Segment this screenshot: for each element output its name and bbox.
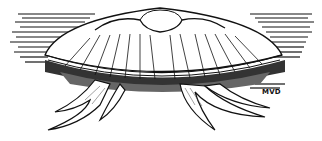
artist-signature: MVD — [262, 88, 281, 96]
jellyfish-illustration: MVD — [0, 0, 322, 141]
jellyfish-drawing — [0, 0, 322, 141]
